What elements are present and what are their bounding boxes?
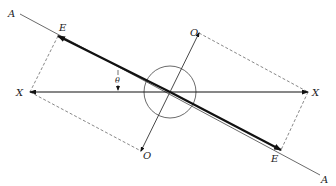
label-e-top: E xyxy=(58,22,67,33)
label-o-top: O xyxy=(190,27,198,38)
vector-e-bottom xyxy=(170,92,281,150)
label-e-bottom: E xyxy=(270,153,279,164)
label-o-bottom: O xyxy=(143,150,151,161)
label-x-left: X xyxy=(15,87,24,98)
dashed-edge-x-right-e xyxy=(281,92,308,150)
label-a-bottom: A xyxy=(320,174,328,185)
dashed-edge-o-top-x-right xyxy=(199,33,308,92)
axis-line-a xyxy=(20,14,320,175)
theta-label: θ xyxy=(115,76,120,85)
label-x-right: X xyxy=(311,87,320,98)
dashed-edge-e-x-left xyxy=(30,36,58,92)
label-a-top: A xyxy=(7,8,15,19)
vector-diagram: θ A A E E X X O O xyxy=(0,0,336,186)
dashed-edge-x-o-bottom xyxy=(30,92,141,151)
